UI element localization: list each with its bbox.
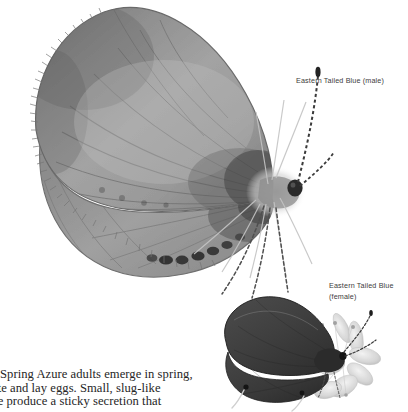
- caption-line-3: ae produce a sticky secretion that: [0, 395, 215, 409]
- butterfly-female-illustration: [214, 294, 384, 412]
- butterfly-male-illustration: [14, 2, 334, 322]
- male-eye: [287, 179, 302, 196]
- caption-text-block: Spring Azure adults emerge in spring, at…: [0, 368, 215, 409]
- caption-line-2: ate and lay eggs. Small, slug-like: [0, 382, 215, 396]
- female-eyespot-2: [300, 391, 305, 396]
- female-eyespot-1: [243, 384, 248, 389]
- label-eastern-tailed-blue-female: Eastern Tailed Blue (female): [329, 281, 394, 302]
- illustration-page: Eastern Tailed Blue (male) Eastern Taile…: [0, 0, 408, 412]
- label-eastern-tailed-blue-male: Eastern Tailed Blue (male): [296, 76, 384, 87]
- caption-line-1: Spring Azure adults emerge in spring,: [0, 368, 215, 382]
